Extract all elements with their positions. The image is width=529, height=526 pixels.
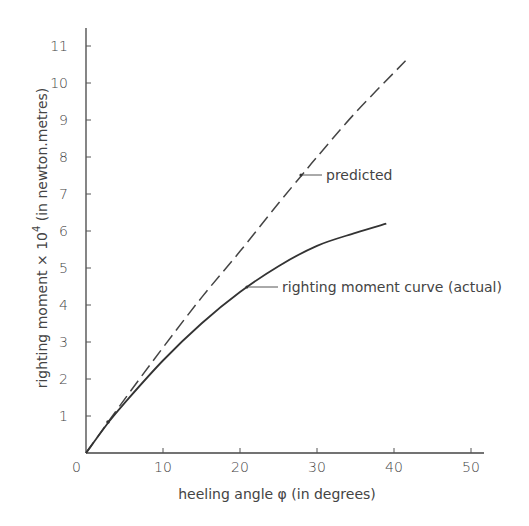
predicted-annotation: predicted: [299, 167, 392, 183]
x-ticks: 1020304050: [154, 448, 480, 475]
x-tick-label: 10: [154, 459, 172, 475]
y-tick-label: 7: [59, 186, 68, 202]
y-tick-label: 8: [59, 149, 68, 165]
low-angle-marker: [106, 420, 110, 424]
righting-moment-chart: 1234567891011 1020304050 0 predicted rig…: [0, 0, 529, 526]
predicted-label: predicted: [326, 167, 392, 183]
x-axis-label: heeling angle φ (in degrees): [178, 486, 376, 502]
actual-label: righting moment curve (actual): [282, 279, 502, 295]
x-tick-label: 30: [308, 459, 326, 475]
y-tick-label: 1: [59, 408, 68, 424]
y-tick-label: 3: [59, 334, 68, 350]
x-tick-label: 50: [462, 459, 480, 475]
predicted-line: [86, 61, 406, 453]
y-tick-label: 9: [59, 112, 68, 128]
series: [86, 61, 406, 453]
y-ticks: 1234567891011: [50, 38, 91, 424]
origin-label: 0: [72, 459, 81, 475]
actual-annotation: righting moment curve (actual): [245, 279, 502, 295]
y-tick-label: 11: [50, 38, 68, 54]
axes: 1234567891011 1020304050: [50, 28, 484, 475]
y-tick-label: 10: [50, 75, 68, 91]
x-tick-label: 40: [385, 459, 403, 475]
actual-righting-moment-curve: [86, 224, 386, 453]
y-axis-label: righting moment × 104 (in newton.metres): [31, 88, 50, 389]
y-tick-label: 5: [59, 260, 68, 276]
y-tick-label: 4: [59, 297, 68, 313]
y-tick-label: 2: [59, 371, 68, 387]
y-tick-label: 6: [59, 223, 68, 239]
x-tick-label: 20: [231, 459, 249, 475]
